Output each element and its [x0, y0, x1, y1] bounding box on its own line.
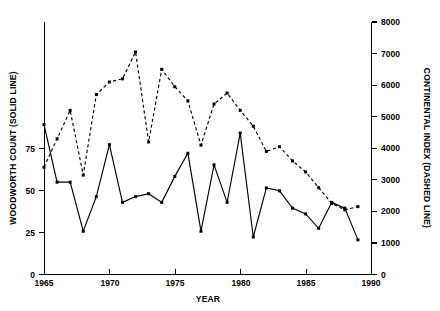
data-point [134, 195, 137, 198]
data-point [317, 227, 320, 230]
data-point [265, 186, 268, 189]
series-line-1 [44, 124, 358, 239]
y2-tick-label-0: 0 [381, 270, 386, 280]
x-axis-title: YEAR [196, 294, 220, 304]
series-markers-1 [43, 123, 360, 241]
y2-tick-label-3000: 3000 [381, 175, 400, 185]
data-point [43, 123, 46, 126]
y2-tick-label-7000: 7000 [381, 49, 400, 59]
data-point [147, 192, 150, 195]
y-tick-label-25: 25 [26, 228, 36, 238]
data-point [278, 189, 281, 192]
y2-tick-label-6000: 6000 [381, 80, 400, 90]
data-point [186, 99, 189, 102]
data-point [147, 140, 150, 143]
data-point [291, 159, 294, 162]
data-point [108, 143, 111, 146]
data-point [226, 201, 229, 204]
x-axis-tick-labels: 1965 1970 1975 1980 1985 1990 [35, 278, 381, 288]
data-point [330, 202, 333, 205]
data-point [265, 150, 268, 153]
data-point [82, 174, 85, 177]
left-y-axis-tick-labels: 0 25 50 75 [26, 144, 36, 280]
y2-tick-label-2000: 2000 [381, 206, 400, 216]
data-point [343, 208, 346, 211]
data-point [160, 201, 163, 204]
data-point [317, 186, 320, 189]
data-point [304, 170, 307, 173]
data-point [121, 77, 124, 80]
data-point [56, 137, 59, 140]
data-point [108, 80, 111, 83]
data-point [291, 207, 294, 210]
x-tick-label-1980: 1980 [232, 278, 251, 288]
data-point [82, 230, 85, 233]
data-point [252, 125, 255, 128]
x-tick-label-1970: 1970 [101, 278, 120, 288]
data-point [173, 175, 176, 178]
right-y-axis-tick-labels: 0 1000 2000 3000 4000 5000 6000 7000 800… [381, 17, 400, 280]
data-point [95, 195, 98, 198]
data-point [56, 181, 59, 184]
data-point [278, 145, 281, 148]
data-point [199, 144, 202, 147]
x-axis-ticks [45, 269, 372, 275]
x-tick-label-1990: 1990 [362, 278, 381, 288]
data-point [160, 68, 163, 71]
chart-figure: 1965 1970 1975 1980 1985 1990 0 25 50 75 [0, 0, 440, 311]
data-point [356, 238, 359, 241]
series-markers-2 [43, 50, 360, 211]
y2-tick-label-5000: 5000 [381, 112, 400, 122]
data-point [186, 152, 189, 155]
data-point [213, 163, 216, 166]
x-tick-label-1985: 1985 [297, 278, 316, 288]
y-tick-label-75: 75 [26, 144, 36, 154]
right-y-axis-ticks [372, 22, 378, 275]
axes-group [44, 22, 372, 275]
x-tick-label-1975: 1975 [166, 278, 185, 288]
y-tick-label-50: 50 [26, 186, 36, 196]
right-y-axis-title: CONTINENTAL INDEX (DASHED LINE) [422, 68, 432, 228]
data-point [69, 109, 72, 112]
data-point [121, 201, 124, 204]
y2-tick-label-8000: 8000 [381, 17, 400, 27]
data-point [252, 235, 255, 238]
data-point [69, 181, 72, 184]
data-point [173, 85, 176, 88]
series-layer [43, 50, 360, 241]
data-point [199, 230, 202, 233]
data-point [134, 50, 137, 53]
y-tick-label-0: 0 [30, 270, 35, 280]
x-tick-label-1965: 1965 [35, 278, 54, 288]
dual-axis-line-chart: 1965 1970 1975 1980 1985 1990 0 25 50 75 [0, 0, 440, 311]
left-y-axis-title: WOODWORTH COUNT (SOLID LINE) [8, 71, 18, 224]
data-point [95, 93, 98, 96]
data-point [43, 166, 46, 169]
data-point [356, 205, 359, 208]
data-point [239, 132, 242, 135]
data-point [213, 103, 216, 106]
y2-tick-label-4000: 4000 [381, 143, 400, 153]
series-line-2 [44, 52, 358, 210]
y2-tick-label-1000: 1000 [381, 238, 400, 248]
data-point [304, 212, 307, 215]
data-point [226, 92, 229, 95]
data-point [239, 109, 242, 112]
